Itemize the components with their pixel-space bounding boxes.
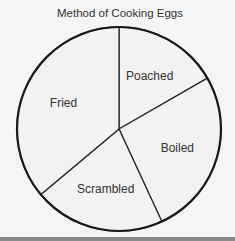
label-poached: Poached [126,69,173,83]
label-scrambled: Scrambled [77,182,134,196]
label-boiled: Boiled [161,141,194,155]
label-fried: Fried [50,96,77,110]
bottom-bar [0,237,235,241]
pie-chart: PoachedBoiledScrambledFried [0,0,235,241]
